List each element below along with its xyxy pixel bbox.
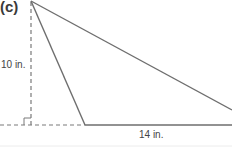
triangle-long-side — [31, 1, 232, 110]
triangle-left-side — [31, 1, 85, 125]
height-label: 10 in. — [1, 59, 25, 71]
right-angle-marker-icon — [24, 118, 31, 125]
triangle-figure — [0, 0, 232, 150]
base-label: 14 in. — [139, 129, 163, 141]
